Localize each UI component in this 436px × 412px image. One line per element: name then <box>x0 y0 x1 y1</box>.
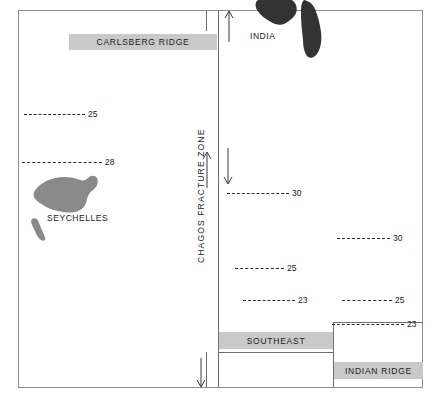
contour-label: 28 <box>105 158 114 167</box>
banner-southeast-label: SOUTHEAST <box>247 336 306 346</box>
contour-25-west: 25 <box>24 110 97 119</box>
southeast-baseline <box>219 352 333 353</box>
contour-dash <box>332 324 404 325</box>
contour-label: 23 <box>298 296 307 305</box>
banner-carlsberg-ridge: CARLSBERG RIDGE <box>69 34 217 50</box>
motion-arrow-bottom-down-icon <box>194 358 208 390</box>
figure-canvas: CARLSBERG RIDGE SOUTHEAST INDIAN RIDGE C… <box>0 0 436 412</box>
contour-30-center: 30 <box>227 189 301 198</box>
contour-label: 23 <box>407 320 416 329</box>
contour-25-east: 25 <box>342 296 404 305</box>
banner-indian-ridge-label: INDIAN RIDGE <box>345 366 412 376</box>
contour-25-center: 25 <box>235 264 296 273</box>
motion-arrow-top-up-icon <box>222 8 236 42</box>
motion-arrow-transform-up-icon <box>200 148 214 188</box>
banner-carlsberg-ridge-label: CARLSBERG RIDGE <box>97 37 190 47</box>
contour-28-west: 28 <box>22 158 114 167</box>
contour-label: 30 <box>292 189 301 198</box>
india-label: INDIA <box>250 31 275 41</box>
motion-arrow-transform-down-icon <box>221 148 235 188</box>
contour-23-east: 23 <box>332 320 416 329</box>
contour-dash <box>22 162 102 163</box>
contour-label: 25 <box>88 110 97 119</box>
contour-dash <box>227 193 289 194</box>
banner-indian-ridge: INDIAN RIDGE <box>334 362 423 379</box>
fracture-zone-tick-top <box>206 11 207 31</box>
seychelles-plateau-shape <box>28 172 110 242</box>
contour-dash <box>337 238 390 239</box>
chagos-fracture-zone-line <box>218 11 219 387</box>
contour-30-east: 30 <box>337 234 402 243</box>
contour-dash <box>342 300 392 301</box>
banner-southeast: SOUTHEAST <box>219 332 333 349</box>
contour-dash <box>24 114 85 115</box>
contour-dash <box>235 268 284 269</box>
figure-caption <box>0 398 436 412</box>
contour-label: 25 <box>287 264 296 273</box>
contour-label: 30 <box>393 234 402 243</box>
contour-23-center: 23 <box>243 296 307 305</box>
contour-label: 25 <box>395 296 404 305</box>
seychelles-label: SEYCHELLES <box>47 213 108 223</box>
contour-dash <box>243 300 295 301</box>
